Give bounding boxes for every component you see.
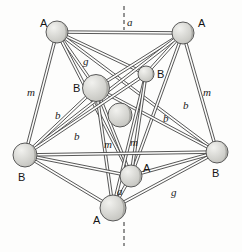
atom-sphere (46, 21, 68, 43)
bond-length-label-g-1: g (83, 56, 89, 67)
bond-length-label-b-4: b (55, 110, 61, 121)
atom-sphere (83, 75, 110, 102)
bond-length-label-a-0: a (127, 17, 133, 28)
atom-sphere (206, 141, 228, 163)
atom-b2-b (138, 66, 154, 82)
bond-edge-1 (186, 38, 217, 145)
bond-edge-0 (30, 159, 106, 205)
atom-label-a4: A (93, 215, 100, 226)
bond-length-label-g-11: g (171, 187, 177, 198)
atom-a4-a (100, 195, 126, 221)
bond-a1-a2 (63, 31, 177, 34)
structure-svg (0, 0, 242, 252)
bond-length-label-m-2: m (27, 87, 35, 98)
atom-sphere (138, 66, 154, 82)
atom-c1 (108, 103, 132, 127)
atom-sphere (108, 103, 132, 127)
atom-label-b4: B (212, 168, 219, 179)
atom-sphere (13, 143, 37, 167)
atom-a3-a (120, 165, 142, 187)
atom-b4-b (206, 141, 228, 163)
bond-length-label-b-7: b (163, 113, 169, 124)
atom-label-a3: A (143, 163, 150, 174)
atom-sphere (100, 195, 126, 221)
atom-label-b3: B (18, 172, 25, 183)
atom-label-b1: B (73, 83, 80, 94)
atom-label-a1: A (40, 18, 47, 29)
atom-a1-a (46, 21, 68, 43)
bond-length-label-b-6: b (183, 100, 189, 111)
atom-label-a2: A (198, 18, 205, 29)
bond-length-label-m-3: m (203, 87, 211, 98)
atom-sphere (172, 22, 194, 44)
bond-edge-1 (32, 155, 126, 174)
atom-a2-a (172, 22, 194, 44)
bond-length-label-b-5: b (74, 131, 80, 142)
bond-core (63, 32, 177, 33)
atom-b3-b (13, 143, 37, 167)
atom-b1-b (83, 75, 110, 102)
bond-length-label-m-8: m (104, 139, 112, 150)
figure-canvas: AABBBBAA agmmbbbbmmag (0, 0, 242, 252)
bond-length-label-m-9: m (130, 137, 138, 148)
atom-label-b2: B (157, 69, 164, 80)
bond-length-label-a-10: a (117, 186, 123, 197)
atom-sphere (120, 165, 142, 187)
